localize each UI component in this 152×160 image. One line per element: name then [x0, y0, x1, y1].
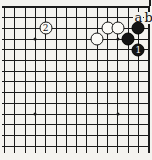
board-right-edge: [148, 6, 150, 153]
point-label-b: b: [145, 11, 152, 24]
grid-line: [128, 6, 129, 153]
grid-line: [76, 6, 77, 153]
black-stone-1: 1: [132, 43, 145, 56]
star-point: [34, 38, 37, 41]
grid-line: [14, 6, 15, 153]
grid-line: [4, 6, 5, 153]
page-edge-tick: [149, 0, 150, 6]
go-diagram-page: ab21: [0, 0, 152, 160]
go-board: ab21: [0, 0, 152, 160]
black-stone: [122, 33, 135, 46]
black-stone: [132, 22, 145, 35]
white-stone: [91, 33, 104, 46]
star-point: [116, 38, 119, 41]
grid-line: [97, 6, 98, 153]
white-stone-2: 2: [39, 22, 52, 35]
star-point: [116, 113, 119, 116]
grid-line: [35, 6, 36, 153]
grid-line: [56, 6, 57, 153]
star-point: [34, 113, 37, 116]
grid-line: [25, 6, 26, 153]
grid-line: [66, 6, 67, 153]
white-stone: [111, 22, 124, 35]
grid-line: [86, 6, 87, 153]
